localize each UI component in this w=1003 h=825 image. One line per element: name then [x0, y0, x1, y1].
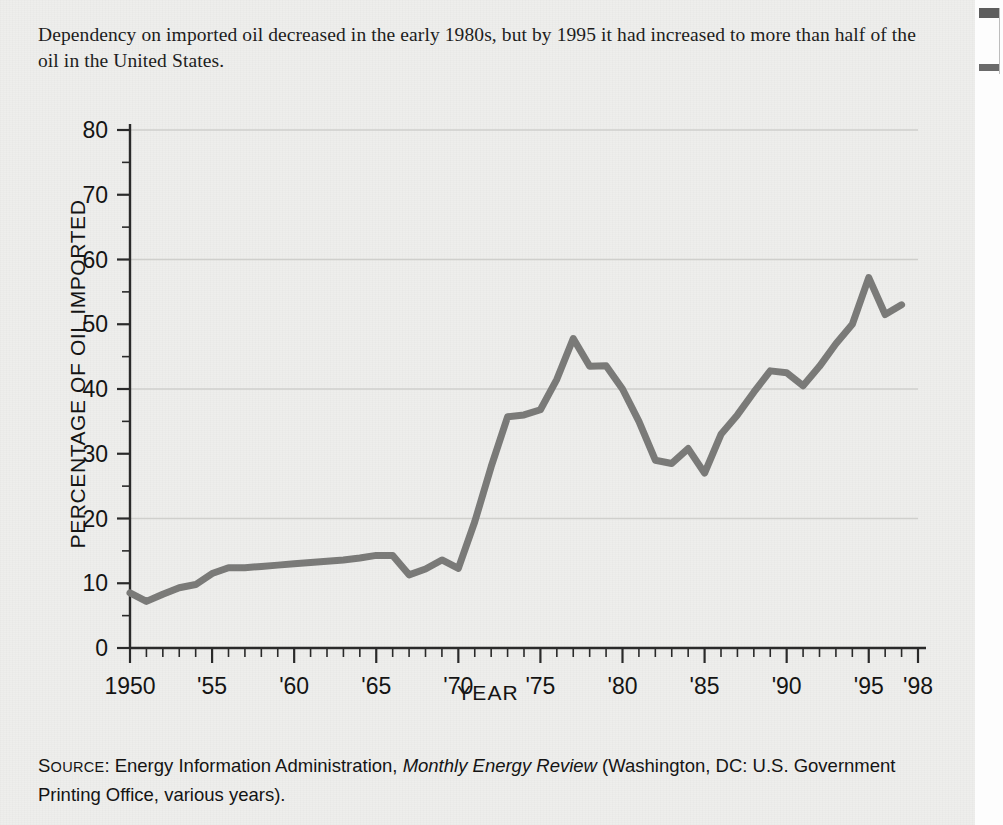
x-tick-label: '55 — [197, 673, 227, 699]
x-tick-label: '98 — [903, 673, 933, 699]
figure: PERCENTAGE OF OIL IMPORTED YEAR 01020304… — [38, 104, 938, 724]
y-tick-label: 0 — [95, 635, 108, 661]
source-publication-title: Monthly Energy Review — [403, 755, 597, 776]
y-axis-ticks — [117, 130, 130, 648]
scanned-page: Dependency on imported oil decreased in … — [0, 0, 1003, 825]
source-label-cap: S — [38, 755, 51, 776]
page-edge-mark-bottom-icon — [979, 64, 999, 71]
line-chart: 01020304050607080 1950'55'60'65'70'75'80… — [38, 104, 938, 724]
y-tick-label: 30 — [82, 441, 108, 467]
x-tick-label: '65 — [361, 673, 391, 699]
y-tick-label: 50 — [82, 311, 108, 337]
x-tick-label: 1950 — [104, 673, 155, 699]
y-tick-label: 10 — [82, 570, 108, 596]
x-tick-label: '90 — [772, 673, 802, 699]
gridlines — [130, 130, 918, 519]
x-tick-label: '85 — [690, 673, 720, 699]
y-axis-tick-labels: 01020304050607080 — [82, 117, 108, 661]
x-tick-label: '60 — [279, 673, 309, 699]
x-tick-label: '75 — [525, 673, 555, 699]
page-edge-mark-top-icon — [979, 8, 999, 18]
x-tick-label: '80 — [608, 673, 638, 699]
x-axis-ticks — [130, 648, 918, 663]
source-note: SOURCE: Energy Information Administratio… — [38, 752, 928, 808]
y-tick-label: 40 — [82, 376, 108, 402]
x-tick-label: '70 — [443, 673, 473, 699]
source-label-rest: OURCE — [51, 759, 105, 775]
source-text-before: : Energy Information Administration, — [104, 755, 402, 776]
y-tick-label: 60 — [82, 247, 108, 273]
y-tick-label: 20 — [82, 506, 108, 532]
page-right-margin — [975, 0, 1003, 825]
data-series-line — [130, 278, 902, 602]
plot-area: PERCENTAGE OF OIL IMPORTED YEAR 01020304… — [38, 104, 938, 724]
page-edge-rule — [999, 8, 1000, 74]
y-tick-label: 80 — [82, 117, 108, 143]
y-tick-label: 70 — [82, 182, 108, 208]
lead-caption: Dependency on imported oil decreased in … — [38, 22, 918, 74]
x-axis-tick-labels: 1950'55'60'65'70'75'80'85'90'95'98 — [104, 673, 933, 699]
x-tick-label: '95 — [854, 673, 884, 699]
